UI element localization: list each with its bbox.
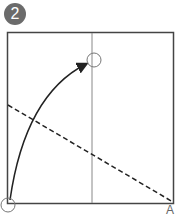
paper-square (8, 33, 174, 204)
folding-diagram (0, 0, 180, 217)
fold-arrow (10, 64, 86, 200)
corner-label: A (166, 203, 174, 217)
target-point-circle (87, 53, 101, 67)
